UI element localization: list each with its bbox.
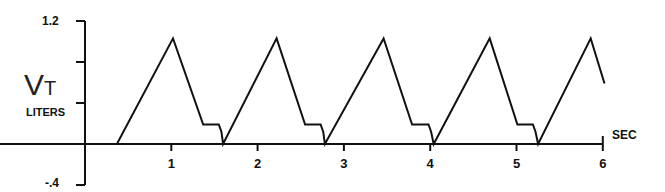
x-tick-label: 6 bbox=[599, 156, 606, 171]
y-axis-label: VT bbox=[24, 70, 56, 103]
tidal-volume-chart: 123456 bbox=[0, 0, 665, 192]
tidal-volume-trace bbox=[85, 38, 605, 144]
x-tick-label: 1 bbox=[168, 156, 175, 171]
x-tick-label: 2 bbox=[254, 156, 261, 171]
y-axis-unit: LITERS bbox=[26, 106, 65, 118]
y-axis-label-main: V bbox=[24, 68, 44, 101]
x-tick-label: 4 bbox=[427, 156, 435, 171]
x-axis-unit: SEC bbox=[612, 128, 637, 142]
x-tick-label: 3 bbox=[340, 156, 347, 171]
y-tick-label-bottom: -.4 bbox=[45, 176, 59, 190]
y-tick-label-top: 1.2 bbox=[42, 14, 59, 28]
y-axis-label-sub: T bbox=[44, 77, 56, 99]
x-tick-label: 5 bbox=[513, 156, 520, 171]
